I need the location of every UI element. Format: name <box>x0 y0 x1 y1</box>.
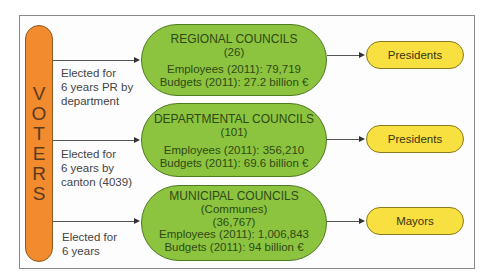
municipal-councils-node: MUNICIPAL COUNCILS (Communes) (36,767) E… <box>141 185 327 261</box>
council-employees: Employees (2011): 79,719 <box>142 63 326 76</box>
council-budgets: Budgets (2011): 94 billion € <box>142 241 326 254</box>
council-count: (101) <box>142 126 326 139</box>
regional-leader-node: Presidents <box>366 41 464 69</box>
municipal-leader-node: Mayors <box>366 207 464 235</box>
departmental-councils-node: DEPARTMENTAL COUNCILS (101) Employees (2… <box>141 103 327 177</box>
voters-to-departmental-arrow <box>53 140 135 141</box>
arrowhead-icon <box>134 137 140 143</box>
arrowhead-icon <box>359 136 365 142</box>
council-count: (26) <box>142 46 326 59</box>
voters-letter: O <box>32 104 47 124</box>
voters-bar: V O T E R S <box>25 25 53 262</box>
arrowhead-icon <box>359 52 365 58</box>
council-subtitle: (Communes) <box>142 203 326 216</box>
voters-letter: T <box>33 124 45 144</box>
council-employees: Employees (2011): 356,210 <box>142 144 326 157</box>
election-rule-municipal: Elected for 6 years <box>62 230 117 258</box>
regional-councils-node: REGIONAL COUNCILS (26) Employees (2011):… <box>141 24 327 96</box>
voters-letter: E <box>33 144 46 164</box>
council-budgets: Budgets (2011): 27.2 billion € <box>142 76 326 89</box>
council-employees: Employees (2011): 1,006,843 <box>142 228 326 241</box>
voters-letter: R <box>32 164 46 184</box>
departmental-to-leader-arrow <box>327 139 360 140</box>
regional-to-leader-arrow <box>327 55 360 56</box>
voters-letter: V <box>33 84 46 104</box>
arrowhead-icon <box>359 218 365 224</box>
voters-to-regional-arrow <box>53 60 135 61</box>
council-budgets: Budgets (2011): 69.6 billion € <box>142 157 326 170</box>
election-rule-departmental: Elected for 6 years by canton (4039) <box>61 147 132 189</box>
voters-letter: S <box>33 184 46 204</box>
departmental-leader-node: Presidents <box>366 125 464 153</box>
voters-to-municipal-arrow <box>53 221 135 222</box>
arrowhead-icon <box>134 218 140 224</box>
council-title: REGIONAL COUNCILS <box>142 33 326 46</box>
council-title: MUNICIPAL COUNCILS <box>142 190 326 203</box>
election-rule-regional: Elected for 6 years PR by department <box>61 66 133 108</box>
arrowhead-icon <box>134 57 140 63</box>
council-count: (36,767) <box>142 216 326 229</box>
municipal-to-leader-arrow <box>327 221 360 222</box>
council-title: DEPARTMENTAL COUNCILS <box>142 113 326 126</box>
